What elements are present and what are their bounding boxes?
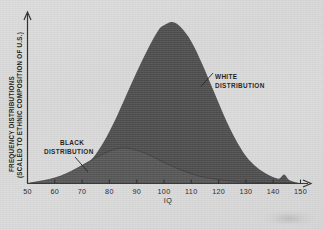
x-tick-label-90: 90 — [132, 187, 141, 196]
white-annotation-line1: WHITE — [215, 73, 238, 80]
x-tick-label-80: 80 — [105, 187, 114, 196]
x-tick-label-50: 50 — [23, 187, 32, 196]
black-annotation-line1: BLACK — [60, 139, 84, 146]
x-tick-label-100: 100 — [158, 187, 171, 196]
x-tick-label-110: 110 — [185, 187, 197, 196]
x-tick-label-130: 130 — [239, 187, 252, 196]
y-axis-label: FREQUENCY DISTRIBUTIONS (SCALED TO ETHNI… — [8, 32, 24, 178]
x-tick-label-70: 70 — [78, 187, 87, 196]
x-tick-label-60: 60 — [50, 187, 59, 196]
black-annotation-line2: DISTRIBUTION — [44, 148, 94, 155]
white-annotation-line2: DISTRIBUTION — [215, 82, 265, 89]
y-axis-label-line1: FREQUENCY DISTRIBUTIONS — [8, 76, 16, 172]
x-tick-label-140: 140 — [267, 187, 280, 196]
chart-figure: 5060708090100110120130140150 IQ FREQUENC… — [0, 0, 323, 230]
x-tick-label-120: 120 — [212, 187, 225, 196]
y-axis-label-line2: (SCALED TO ETHNIC COMPOSITION OF U.S.) — [16, 32, 24, 178]
x-tick-label-150: 150 — [294, 187, 307, 196]
plot-area — [28, 22, 301, 184]
x-axis-tick-labels: 5060708090100110120130140150 — [23, 187, 307, 196]
white-distribution-area — [28, 22, 301, 184]
x-axis-label: IQ — [164, 196, 172, 205]
iq-distribution-chart: 5060708090100110120130140150 IQ FREQUENC… — [0, 0, 323, 230]
